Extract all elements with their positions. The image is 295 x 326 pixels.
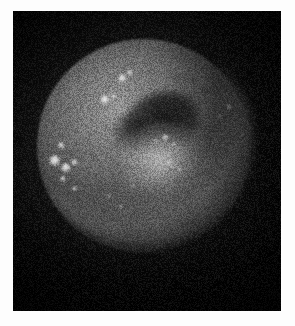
page-root [0, 0, 295, 326]
bottom-falloff-shadow [13, 201, 281, 311]
image-panel[interactable] [13, 11, 281, 311]
